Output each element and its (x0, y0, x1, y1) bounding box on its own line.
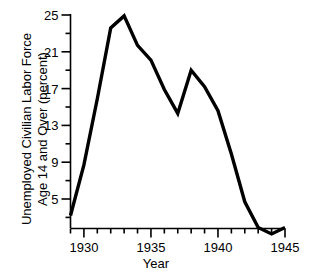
x-tick-label: 1935 (136, 241, 165, 254)
chart-figure: 5913172125 1930193519401945 Unemployed C… (0, 0, 312, 278)
y-axis-title: Unemployed Civilian Labor Force Age 14 a… (18, 24, 52, 234)
y-tick-label: 5 (51, 193, 58, 206)
y-axis-title-line-2: Age 14 and Over (percent) (35, 52, 51, 206)
x-tick-label: 1930 (69, 241, 98, 254)
y-axis-title-line-1: Unemployed Civilian Labor Force (19, 33, 35, 225)
x-axis-ticks (71, 229, 286, 238)
x-axis-title: Year (0, 256, 312, 271)
unemployment-line-series (71, 16, 286, 234)
axis-lines (71, 14, 286, 229)
y-axis-ticks (62, 15, 71, 217)
y-tick-label: 9 (51, 156, 58, 169)
x-tick-label: 1945 (271, 241, 300, 254)
x-tick-label: 1940 (204, 241, 233, 254)
y-tick-label: 25 (44, 9, 58, 22)
